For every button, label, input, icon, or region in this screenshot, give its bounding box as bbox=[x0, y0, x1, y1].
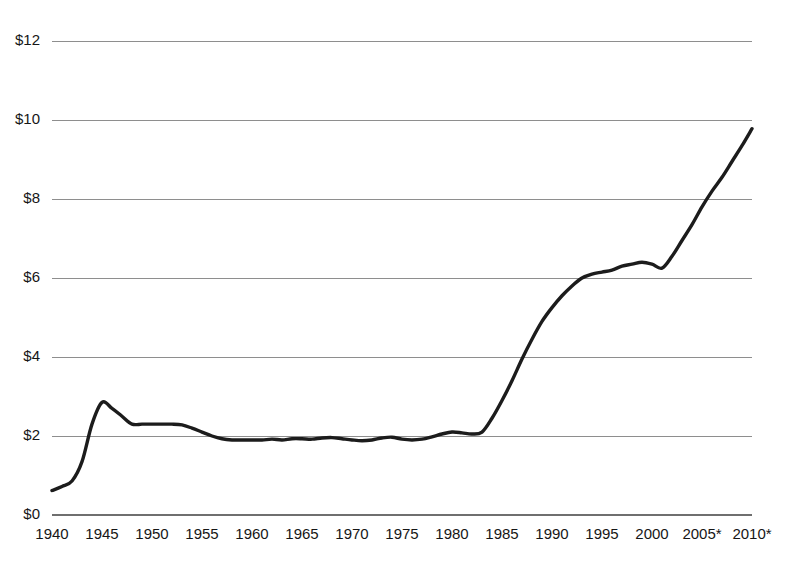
y-axis-tick-label: $8 bbox=[23, 189, 40, 206]
x-axis-tick-label: 1985 bbox=[485, 525, 518, 542]
y-axis-tick-label: $6 bbox=[23, 268, 40, 285]
x-axis-tick-label: 1990 bbox=[535, 525, 568, 542]
x-axis-tick-label: 1970 bbox=[335, 525, 368, 542]
y-axis-tick-label: $4 bbox=[23, 347, 40, 364]
x-axis-tick-label: 2010* bbox=[732, 525, 771, 542]
x-axis-tick-label: 2005* bbox=[682, 525, 721, 542]
x-axis-tick-label: 1965 bbox=[285, 525, 318, 542]
y-axis-tick-label: $2 bbox=[23, 426, 40, 443]
chart-background bbox=[0, 0, 790, 570]
x-axis-tick-label: 1980 bbox=[435, 525, 468, 542]
y-axis-tick-label: $0 bbox=[23, 505, 40, 522]
chart-canvas: $0$2$4$6$8$10$12 19401945195019551960196… bbox=[0, 0, 790, 570]
line-chart: $0$2$4$6$8$10$12 19401945195019551960196… bbox=[0, 0, 790, 570]
y-axis-tick-label: $12 bbox=[15, 31, 40, 48]
x-axis-tick-label: 1960 bbox=[235, 525, 268, 542]
x-axis-tick-label: 1995 bbox=[585, 525, 618, 542]
x-axis-tick-label: 1945 bbox=[85, 525, 118, 542]
x-axis-tick-labels: 1940194519501955196019651970197519801985… bbox=[35, 525, 771, 542]
x-axis-tick-label: 1975 bbox=[385, 525, 418, 542]
y-axis-tick-label: $10 bbox=[15, 110, 40, 127]
x-axis-tick-label: 1950 bbox=[135, 525, 168, 542]
x-axis-tick-label: 1955 bbox=[185, 525, 218, 542]
x-axis-tick-label: 2000 bbox=[635, 525, 668, 542]
x-axis-tick-label: 1940 bbox=[35, 525, 68, 542]
